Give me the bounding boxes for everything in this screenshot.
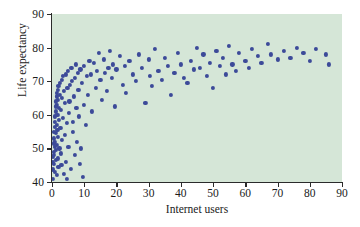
data-point xyxy=(67,99,71,103)
x-tick-mark xyxy=(116,183,117,187)
data-point xyxy=(211,86,215,90)
data-point xyxy=(66,69,70,73)
data-point xyxy=(57,146,61,150)
data-point xyxy=(58,126,62,130)
data-point xyxy=(148,74,152,78)
data-point xyxy=(227,44,231,48)
data-point xyxy=(61,116,65,120)
data-point xyxy=(74,62,78,66)
data-point xyxy=(69,166,73,170)
data-point xyxy=(150,84,154,88)
data-point xyxy=(153,47,157,51)
data-point xyxy=(301,51,305,55)
data-point xyxy=(234,69,238,73)
data-point xyxy=(288,56,292,60)
data-point xyxy=(67,111,71,115)
data-point xyxy=(205,74,209,78)
data-point xyxy=(73,153,77,157)
data-point xyxy=(72,76,76,80)
x-tick-label: 60 xyxy=(239,187,251,199)
data-point xyxy=(169,93,173,97)
data-point xyxy=(59,108,63,112)
x-tick-label: 50 xyxy=(207,187,219,199)
data-point xyxy=(108,49,112,53)
y-tick-mark xyxy=(47,14,51,15)
data-point xyxy=(63,160,67,164)
x-tick-mark xyxy=(278,183,279,187)
y-tick-label: 50 xyxy=(32,142,44,154)
data-point xyxy=(243,59,247,63)
scatter-chart-figure: 0102030405060708090 405060708090 Interne… xyxy=(0,0,360,227)
y-tick-label: 40 xyxy=(32,176,44,188)
y-axis-title: Life expectancy xyxy=(16,0,28,120)
data-point xyxy=(230,62,234,66)
y-axis-line xyxy=(51,13,52,183)
data-point xyxy=(192,67,196,71)
x-tick-label: 30 xyxy=(143,187,155,199)
data-point xyxy=(217,64,221,68)
x-axis-title: Internet users xyxy=(52,203,342,215)
data-point xyxy=(237,51,241,55)
data-point xyxy=(63,133,67,137)
data-point xyxy=(156,69,160,73)
data-point xyxy=(101,57,105,61)
data-point xyxy=(163,56,167,60)
data-point xyxy=(98,77,102,81)
y-tick-mark xyxy=(47,182,51,183)
y-tick-label: 80 xyxy=(32,42,44,54)
data-point xyxy=(64,121,68,125)
data-point xyxy=(56,156,60,160)
data-point xyxy=(82,64,86,68)
x-tick-label: 40 xyxy=(175,187,187,199)
data-point xyxy=(69,66,73,70)
data-point xyxy=(327,62,331,66)
data-point xyxy=(72,94,76,98)
data-point xyxy=(143,101,147,105)
x-tick-mark xyxy=(310,183,311,187)
data-point xyxy=(76,88,80,92)
data-point xyxy=(176,51,180,55)
data-point xyxy=(250,47,254,51)
data-point xyxy=(256,54,260,58)
data-point xyxy=(62,89,66,93)
data-point xyxy=(137,52,141,56)
data-point xyxy=(182,76,186,80)
x-tick-label: 90 xyxy=(336,187,348,199)
data-point xyxy=(259,61,263,65)
data-point xyxy=(198,66,202,70)
data-point xyxy=(100,98,104,102)
data-point xyxy=(140,66,144,70)
x-tick-label: 70 xyxy=(272,187,284,199)
data-point xyxy=(89,72,93,76)
data-point xyxy=(79,146,83,150)
y-tick-label: 90 xyxy=(32,8,44,20)
data-point xyxy=(78,161,82,165)
data-point xyxy=(246,66,250,70)
data-point xyxy=(201,52,205,56)
data-point xyxy=(122,64,126,68)
data-point xyxy=(110,76,114,80)
data-point xyxy=(55,173,59,177)
data-point xyxy=(111,62,115,66)
data-point xyxy=(113,104,117,108)
data-point xyxy=(308,59,312,63)
data-point xyxy=(55,113,59,117)
x-tick-label: 10 xyxy=(78,187,90,199)
data-point xyxy=(71,130,75,134)
data-point xyxy=(172,71,176,75)
data-point xyxy=(124,91,128,95)
x-tick-label: 20 xyxy=(111,187,123,199)
data-point xyxy=(118,54,122,58)
x-tick-mark xyxy=(181,183,182,187)
data-point xyxy=(188,59,192,63)
data-point xyxy=(60,138,64,142)
data-point xyxy=(80,81,84,85)
data-point xyxy=(75,140,79,144)
x-tick-label: 80 xyxy=(304,187,316,199)
y-tick-mark xyxy=(47,48,51,49)
data-point xyxy=(90,109,94,113)
data-point xyxy=(275,57,279,61)
data-point xyxy=(314,47,318,51)
data-point xyxy=(282,49,286,53)
data-point xyxy=(106,66,110,70)
